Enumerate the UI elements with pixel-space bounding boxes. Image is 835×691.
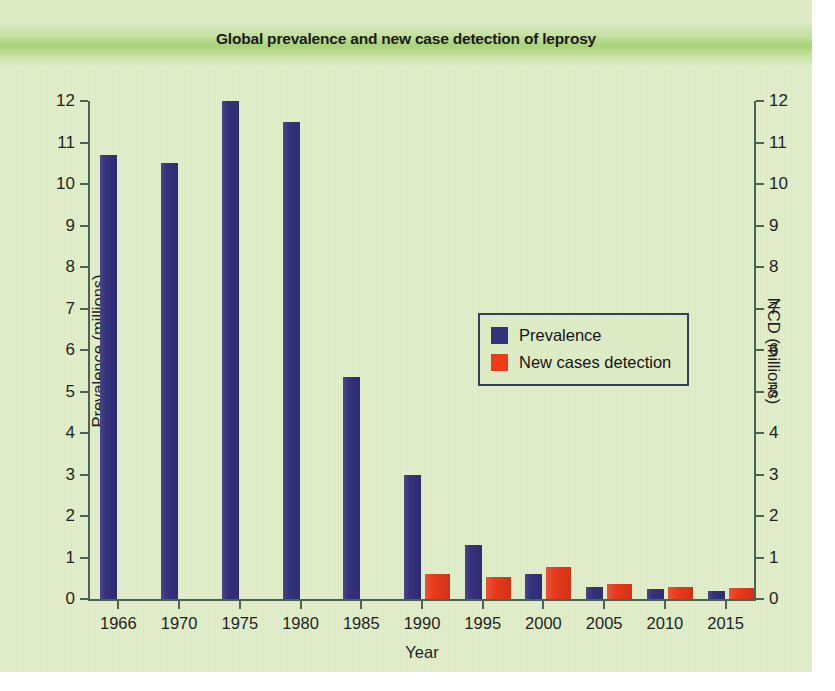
bar-prevalence	[586, 587, 603, 599]
y-axis-right-tick	[756, 349, 764, 351]
y-axis-right-tick	[756, 266, 764, 268]
bar-prevalence	[708, 591, 725, 599]
y-axis-right-tick-label: 3	[769, 466, 778, 483]
y-axis-right-tick	[756, 225, 764, 227]
y-axis-right-tick	[756, 474, 764, 476]
y-axis-left-tick-label: 7	[66, 300, 75, 317]
x-axis-tick	[482, 601, 484, 609]
x-axis-tick-label: 1995	[464, 615, 501, 632]
y-axis-left-tick-label: 4	[66, 424, 75, 441]
y-axis-right-tick	[756, 391, 764, 393]
bar-new-cases-detection	[425, 574, 450, 599]
y-axis-right-tick	[756, 183, 764, 185]
figure-root: Global prevalence and new case detection…	[0, 0, 835, 691]
bar-prevalence	[100, 155, 117, 599]
y-axis-right-tick-label: 12	[769, 92, 788, 109]
y-axis-left-tick	[80, 432, 88, 434]
y-axis-right-tick-label: 7	[769, 300, 778, 317]
x-axis-tick-label: 2005	[586, 615, 623, 632]
x-axis-tick-label: 2000	[525, 615, 562, 632]
chart-title: Global prevalence and new case detection…	[0, 30, 812, 48]
y-axis-right-tick	[756, 142, 764, 144]
y-axis-left-tick	[80, 474, 88, 476]
y-axis-right-tick-label: 9	[769, 217, 778, 234]
bar-new-cases-detection	[729, 588, 754, 599]
y-axis-left-tick	[80, 515, 88, 517]
x-axis-tick-label: 1966	[100, 615, 137, 632]
y-axis-right-tick	[756, 515, 764, 517]
y-axis-left-tick-label: 3	[66, 466, 75, 483]
bar-prevalence	[525, 574, 542, 599]
x-axis-title: Year	[405, 643, 438, 662]
x-axis-tick	[178, 601, 180, 609]
legend-item-prevalence: Prevalence	[491, 322, 671, 349]
y-axis-right-tick-label: 8	[769, 258, 778, 275]
bar-new-cases-detection	[486, 577, 511, 599]
x-axis-tick-label: 1970	[161, 615, 198, 632]
y-axis-left-tick	[80, 100, 88, 102]
bar-prevalence	[647, 589, 664, 599]
x-axis-tick-label: 2010	[647, 615, 684, 632]
legend-item-new-cases-detection: New cases detection	[491, 349, 671, 376]
bar-new-cases-detection	[668, 587, 693, 599]
x-axis-tick	[360, 601, 362, 609]
y-axis-left-tick	[80, 266, 88, 268]
y-axis-left-tick-label: 12	[56, 92, 75, 109]
y-axis-left-tick-label: 2	[66, 507, 75, 524]
legend-label-prevalence: Prevalence	[519, 327, 602, 344]
x-axis-tick	[542, 601, 544, 609]
y-axis-right-tick	[756, 100, 764, 102]
y-axis-right-tick	[756, 308, 764, 310]
y-axis-left-tick	[80, 183, 88, 185]
y-axis-left-tick-label: 10	[56, 175, 75, 192]
y-axis-left-tick-label: 0	[66, 590, 75, 607]
title-band-top-filler	[0, 0, 812, 24]
bar-new-cases-detection	[546, 567, 571, 599]
y-axis-right-tick-label: 5	[769, 383, 778, 400]
y-axis-right-tick-label: 6	[769, 341, 778, 358]
x-axis-tick	[239, 601, 241, 609]
y-axis-left-tick-label: 8	[66, 258, 75, 275]
legend-swatch-new-cases-detection	[491, 354, 508, 371]
x-axis-tick-label: 1980	[282, 615, 319, 632]
y-axis-right-tick-label: 1	[769, 549, 778, 566]
y-axis-right-tick-label: 0	[769, 590, 778, 607]
legend-label-new-cases-detection: New cases detection	[519, 354, 671, 371]
y-axis-left-tick	[80, 308, 88, 310]
bar-prevalence	[283, 122, 300, 599]
y-axis-right-tick-label: 4	[769, 424, 778, 441]
legend-swatch-prevalence	[491, 327, 508, 344]
x-axis-tick	[664, 601, 666, 609]
y-axis-right-tick	[756, 557, 764, 559]
y-axis-right-tick-label: 11	[769, 134, 787, 151]
y-axis-left-tick-label: 11	[57, 134, 75, 151]
y-axis-right-tick-label: 2	[769, 507, 778, 524]
y-axis-left-tick-label: 6	[66, 341, 75, 358]
bar-prevalence	[465, 545, 482, 599]
x-axis-tick-label: 2015	[707, 615, 744, 632]
bar-prevalence	[343, 377, 360, 599]
bar-prevalence	[161, 163, 178, 599]
y-axis-right-line	[754, 101, 756, 601]
y-axis-right-tick	[756, 432, 764, 434]
y-axis-right-tick	[756, 598, 764, 600]
x-axis-tick-label: 1990	[404, 615, 441, 632]
legend: Prevalence New cases detection	[478, 313, 689, 386]
x-axis-tick	[603, 601, 605, 609]
x-axis-tick	[300, 601, 302, 609]
y-axis-left-tick-label: 5	[66, 383, 75, 400]
bar-new-cases-detection	[607, 584, 632, 599]
y-axis-left-tick-label: 9	[66, 217, 75, 234]
x-axis-tick	[421, 601, 423, 609]
y-axis-left-tick	[80, 598, 88, 600]
x-axis-tick	[117, 601, 119, 609]
y-axis-left-tick	[80, 142, 88, 144]
bar-prevalence	[404, 475, 421, 600]
y-axis-left-tick	[80, 391, 88, 393]
y-axis-left-tick	[80, 557, 88, 559]
bar-prevalence	[222, 101, 239, 599]
y-axis-right-tick-label: 10	[769, 175, 788, 192]
y-axis-left-tick	[80, 349, 88, 351]
x-axis-tick-label: 1985	[343, 615, 380, 632]
y-axis-left-tick	[80, 225, 88, 227]
